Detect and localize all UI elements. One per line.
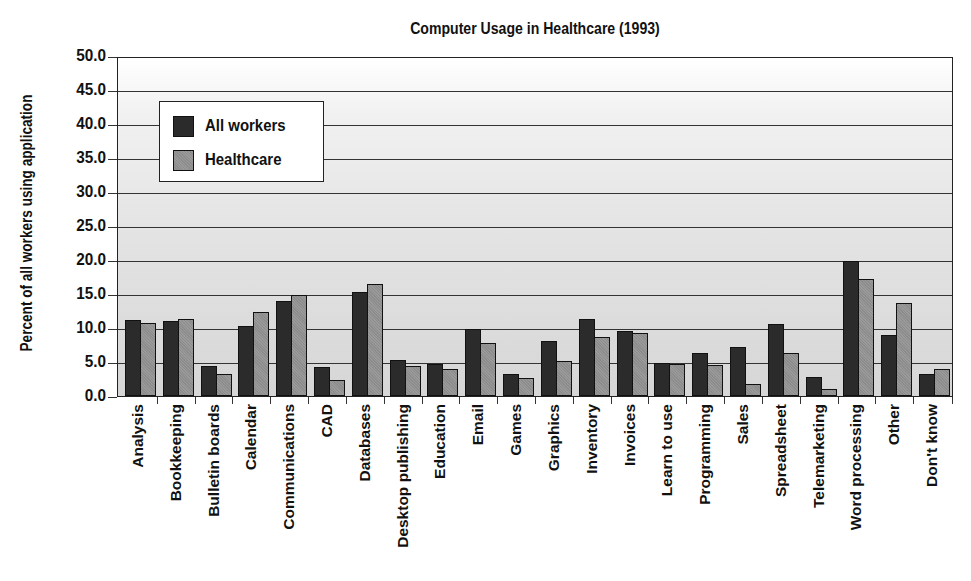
bar-healthcare: [518, 378, 534, 396]
gridline: [118, 227, 952, 228]
x-tick-label: Invoices: [620, 404, 640, 574]
x-tick-label: Telemarketing: [809, 404, 829, 574]
x-tick-label: Desktop publishing: [393, 404, 413, 574]
bar-healthcare: [329, 380, 345, 396]
y-tick-mark: [108, 363, 117, 364]
x-tick-mark: [308, 397, 309, 404]
bar-all-workers: [276, 301, 292, 396]
x-tick-mark: [195, 397, 196, 404]
y-tick-label: 50.0: [56, 46, 106, 66]
x-tick-label: Education: [430, 404, 450, 574]
y-tick-label: 30.0: [56, 182, 106, 202]
y-tick-mark: [108, 227, 117, 228]
bar-healthcare: [594, 337, 610, 396]
bar-healthcare: [858, 279, 874, 396]
legend-swatch-healthcare: [173, 150, 194, 171]
x-tick-mark: [346, 397, 347, 404]
x-tick-label: Email: [468, 404, 488, 574]
bar-all-workers: [919, 374, 935, 396]
y-tick-mark: [108, 329, 117, 330]
x-tick-label: CAD: [317, 404, 337, 574]
bar-all-workers: [692, 353, 708, 396]
bar-all-workers: [314, 367, 330, 396]
bar-healthcare: [140, 323, 156, 396]
legend-label-healthcare: Healthcare: [205, 150, 282, 170]
y-tick-label: 10.0: [56, 318, 106, 338]
x-tick-label: Programming: [695, 404, 715, 574]
bar-all-workers: [768, 324, 784, 396]
y-tick-label: 35.0: [56, 148, 106, 168]
bar-all-workers: [617, 331, 633, 396]
y-tick-mark: [108, 159, 117, 160]
x-tick-mark: [648, 397, 649, 404]
x-tick-mark: [157, 397, 158, 404]
bar-healthcare: [934, 369, 950, 396]
legend-label-all-workers: All workers: [205, 116, 286, 136]
bar-healthcare: [178, 319, 194, 396]
x-tick-label: Don't know: [922, 404, 942, 574]
x-tick-mark: [232, 397, 233, 404]
bar-all-workers: [352, 292, 368, 396]
bar-healthcare: [291, 295, 307, 396]
x-tick-mark: [686, 397, 687, 404]
x-tick-mark: [497, 397, 498, 404]
bar-healthcare: [632, 333, 648, 396]
bar-healthcare: [367, 284, 383, 396]
legend: All workers Healthcare: [159, 101, 324, 182]
bar-healthcare: [405, 366, 421, 396]
x-tick-label: Word processing: [846, 404, 866, 574]
gridline: [118, 261, 952, 262]
bar-healthcare: [253, 312, 269, 396]
gridline: [118, 91, 952, 92]
bar-healthcare: [669, 364, 685, 396]
y-tick-label: 20.0: [56, 250, 106, 270]
x-tick-label: Databases: [355, 404, 375, 574]
x-tick-label: Calendar: [241, 404, 261, 574]
legend-swatch-all-workers: [173, 116, 194, 137]
y-tick-mark: [108, 295, 117, 296]
x-tick-label: Other: [884, 404, 904, 574]
bar-healthcare: [480, 343, 496, 396]
x-tick-mark: [800, 397, 801, 404]
x-tick-mark: [573, 397, 574, 404]
x-tick-mark: [838, 397, 839, 404]
gridline: [118, 193, 952, 194]
bar-healthcare: [896, 303, 912, 396]
y-tick-mark: [108, 397, 117, 398]
y-tick-mark: [108, 193, 117, 194]
x-tick-mark: [535, 397, 536, 404]
y-tick-label: 45.0: [56, 80, 106, 100]
bar-all-workers: [881, 335, 897, 396]
bar-all-workers: [238, 326, 254, 396]
x-tick-label: Games: [506, 404, 526, 574]
y-tick-label: 15.0: [56, 284, 106, 304]
x-tick-label: Learn to use: [657, 404, 677, 574]
bar-all-workers: [390, 360, 406, 396]
bar-healthcare: [216, 374, 232, 396]
y-tick-label: 40.0: [56, 114, 106, 134]
bar-healthcare: [442, 369, 458, 396]
bar-all-workers: [201, 366, 217, 396]
bar-all-workers: [163, 321, 179, 396]
x-tick-label: Sales: [733, 404, 753, 574]
x-tick-label: Bulletin boards: [204, 404, 224, 574]
x-tick-mark: [384, 397, 385, 404]
x-tick-label: Analysis: [128, 404, 148, 574]
y-tick-label: 25.0: [56, 216, 106, 236]
bar-healthcare: [707, 365, 723, 396]
bar-all-workers: [579, 319, 595, 396]
y-tick-mark: [108, 57, 117, 58]
x-tick-mark: [762, 397, 763, 404]
bar-all-workers: [541, 341, 557, 396]
bar-healthcare: [745, 384, 761, 396]
x-tick-mark: [611, 397, 612, 404]
y-tick-label: 0.0: [56, 386, 106, 406]
bar-all-workers: [465, 329, 481, 396]
x-tick-mark: [270, 397, 271, 404]
bar-healthcare: [821, 389, 837, 396]
bar-all-workers: [654, 363, 670, 396]
x-tick-label: Graphics: [544, 404, 564, 574]
chart-title: Computer Usage in Healthcare (1993): [167, 20, 903, 38]
x-tick-mark: [459, 397, 460, 404]
bar-all-workers: [125, 320, 141, 396]
